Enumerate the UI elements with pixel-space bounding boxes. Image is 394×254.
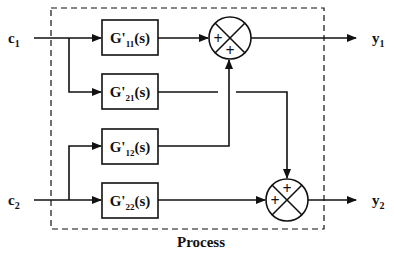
summing-junction-1: + +: [209, 17, 251, 59]
svg-text:+: +: [225, 42, 234, 59]
input-label-c2: c2: [8, 192, 20, 211]
process-label: Process: [177, 234, 225, 250]
svg-text:+: +: [270, 192, 279, 209]
svg-text:+: +: [213, 30, 222, 47]
wire-g21-sum2-b: [236, 92, 287, 178]
block-g12: G'12(s): [102, 129, 158, 164]
wire-c2-g12: [69, 146, 101, 200]
output-label-y2: y2: [372, 192, 385, 211]
svg-text:+: +: [282, 180, 291, 197]
wire-g12-sum1: [158, 60, 229, 146]
output-label-y1: y1: [372, 30, 385, 49]
block-g22: G'22(s): [102, 183, 158, 218]
block-g11: G'11(s): [102, 20, 158, 55]
wire-c1-g21: [69, 38, 101, 92]
block-diagram: c1 c2 G'11(s) G'21(s) G'12(s) G'22(s) + …: [0, 0, 394, 254]
summing-junction-2: + +: [266, 179, 308, 221]
input-label-c1: c1: [8, 30, 20, 49]
block-g21: G'21(s): [102, 74, 158, 109]
